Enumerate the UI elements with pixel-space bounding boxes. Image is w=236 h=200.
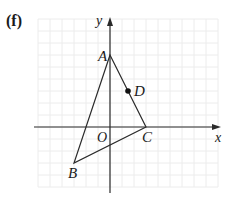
x-axis-label: x xyxy=(214,130,222,145)
label-a: A xyxy=(97,48,108,64)
y-axis-label: y xyxy=(94,13,103,28)
origin-label: O xyxy=(97,130,107,145)
label-c: C xyxy=(142,129,153,145)
y-axis-arrow-icon xyxy=(107,17,113,26)
label-b: B xyxy=(68,165,77,181)
grid-lines xyxy=(38,19,218,187)
point-d-marker xyxy=(125,88,131,94)
part-label: (f) xyxy=(6,12,22,30)
label-d: D xyxy=(133,83,145,99)
coordinate-diagram: (f) x y O A B C D xyxy=(0,0,236,200)
diagram-canvas: x y O A B C D xyxy=(0,0,236,200)
